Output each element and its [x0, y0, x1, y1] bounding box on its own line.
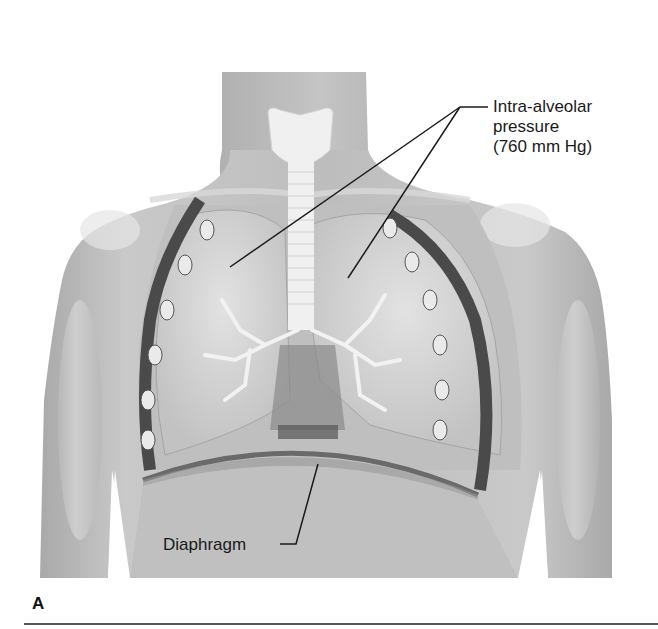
- larynx: [268, 108, 333, 165]
- intra-alveolar-pressure-label: Intra-alveolar pressure (760 mm Hg): [493, 97, 592, 157]
- anatomy-figure: Intra-alveolar pressure (760 mm Hg) Diap…: [0, 0, 658, 629]
- diaphragm-label: Diaphragm: [163, 535, 246, 555]
- label-line-3: (760 mm Hg): [493, 137, 592, 157]
- bottom-divider: [24, 623, 658, 625]
- heart: [270, 345, 345, 430]
- chest-illustration: [0, 0, 658, 629]
- label-line-2: pressure: [493, 117, 592, 137]
- label-line-1: Intra-alveolar: [493, 97, 592, 117]
- panel-letter: A: [32, 594, 44, 614]
